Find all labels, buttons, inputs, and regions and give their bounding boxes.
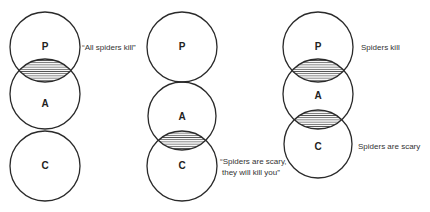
label-p: P xyxy=(42,41,49,52)
label-p: P xyxy=(315,41,322,52)
label-a: A xyxy=(41,98,48,109)
label-c: C xyxy=(41,160,48,171)
venn-diagrams: P A C “All spiders kill” P A C “Spiders … xyxy=(0,0,430,212)
label-p: P xyxy=(179,41,186,52)
panel-2: P A C “Spiders are scary, they will kill… xyxy=(147,12,287,201)
panel-1: P A C “All spiders kill” xyxy=(10,12,136,201)
caption-spiders-kill: Spiders kill xyxy=(361,43,400,52)
label-c: C xyxy=(314,141,321,152)
label-c: C xyxy=(178,160,185,171)
caption-spiders-are-scary: Spiders are scary xyxy=(358,142,420,151)
caption-spiders-are-scary-line1: “Spiders are scary, xyxy=(220,157,287,166)
label-a: A xyxy=(314,90,321,101)
label-a: A xyxy=(178,111,185,122)
caption-spiders-are-scary-line2: they will kill you” xyxy=(222,168,280,177)
caption-all-spiders-kill: “All spiders kill” xyxy=(82,43,136,52)
panel-3: P A C Spiders kill Spiders are scary xyxy=(283,12,420,178)
